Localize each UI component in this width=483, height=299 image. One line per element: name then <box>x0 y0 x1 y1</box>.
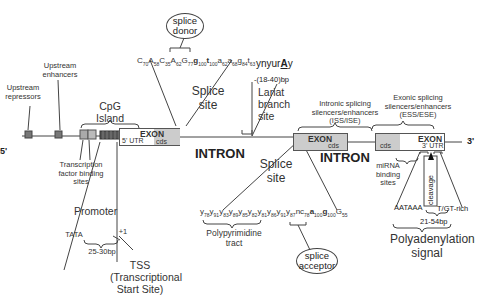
promoter-label: Promoter <box>74 205 114 217</box>
exon-1: EXON 5' UTR cds <box>119 128 180 146</box>
intron-2-label: INTRON <box>320 150 370 165</box>
tss-label: TSS (Transcriptional Start Site) <box>110 259 170 295</box>
upstream-repressors-label: Upstream repressors <box>2 84 44 101</box>
exon-3: cds EXON 3' UTR <box>375 133 445 151</box>
cleavage-label: cleavage <box>426 175 435 205</box>
exon-1-cds: cds <box>156 138 167 145</box>
tgt-rich-label: T/GT-rich <box>437 204 468 213</box>
polypyrimidine-tract-label: Polypyrimidine tract <box>204 229 264 249</box>
branch-motif: ynyurAy <box>256 58 293 69</box>
lariat-branch-site-label: Lariat branch site <box>258 86 294 122</box>
exon-1-utr: 5' UTR <box>122 137 144 144</box>
upstream-enhancers-label: Upstream enhancers <box>38 62 82 79</box>
exon-2: EXON cds <box>293 133 348 151</box>
tata-label: TATA <box>64 231 84 240</box>
splice-site-acceptor-label: Splice site <box>256 158 296 186</box>
intron-1-label: INTRON <box>195 146 245 161</box>
iss-ise-label: Intronic splicing silencers/enhancers (I… <box>310 100 380 126</box>
splice-acceptor-sequence: y78y91y83y89y85y82y81y86y91y87nc78a100g1… <box>200 207 347 218</box>
five-prime-label: 5' <box>0 146 7 156</box>
ess-ese-label: Exonic splicing silencers/enhancers (ESS… <box>380 94 456 120</box>
polyadenylation-signal-label: Polyadenylation signal <box>390 233 464 261</box>
tata-distance-label: 25-30bp <box>84 248 120 257</box>
exon-2-cds: cds <box>328 142 339 149</box>
splice-donor-sequence: C70A58C35A62G77g100t100a62a68g84t63 <box>137 56 255 67</box>
exon-3-cds: cds <box>380 142 391 149</box>
aataaa-label: AATAAA <box>394 203 422 212</box>
plus-one-label: +1 <box>118 228 128 237</box>
exon-3-utr: 3' UTR <box>422 142 444 149</box>
splice-donor-oval: splice donor <box>166 13 204 39</box>
three-prime-label: 3' <box>467 136 474 146</box>
polya-distance-label: 21-54bp <box>420 217 448 226</box>
cpg-island-label: CpG Island <box>92 100 128 124</box>
mirna-binding-label: miRNA binding sites <box>374 162 402 188</box>
tf-binding-sites-label: Transcription factor binding sites <box>50 161 112 187</box>
splice-site-donor-label: Splice site <box>188 85 228 113</box>
splice-acceptor-oval: splice acceptor <box>296 248 338 274</box>
branch-distance: -(18-40)bp <box>254 75 289 84</box>
